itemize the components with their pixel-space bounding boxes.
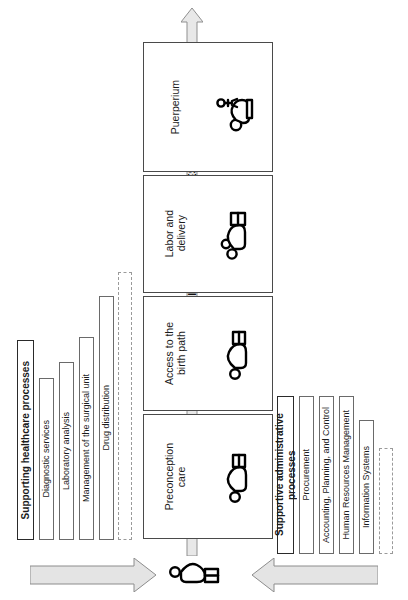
lane-item-procurement[interactable]: Procurement xyxy=(299,396,314,554)
clinical-process-label: Preconception care xyxy=(152,415,198,538)
pregnant-woman-icon xyxy=(168,548,224,596)
lane-item-human-resources-management[interactable]: Human Resources Management xyxy=(339,396,354,554)
lane-item-laboratory-analysis[interactable]: Laboratory analysis xyxy=(59,362,74,540)
clinical-process-box-preconception-care[interactable]: Preconception care xyxy=(143,414,273,539)
clinical-process-box-access-to-birth-path[interactable]: Access to the birth path xyxy=(143,296,273,411)
pregnant-woman-icon xyxy=(200,297,270,410)
diagram-canvas: PRIMARY CLINICAL-CARE PROCESSES Puerperi… xyxy=(0,0,408,600)
lane-item-healthcare-placeholder[interactable] xyxy=(118,272,132,540)
pregnant-woman-icon xyxy=(200,415,270,538)
lane-header-supportive-administrative: Supportive administrative processes xyxy=(277,396,294,554)
mother-and-baby-icon xyxy=(200,43,270,171)
clinical-process-label: Puerperium xyxy=(152,43,198,171)
woman-in-labor-bed-icon xyxy=(200,176,270,292)
clinical-process-box-labor-and-delivery[interactable]: Labor and delivery xyxy=(143,175,273,293)
lane-item-management-of-surgical-unit[interactable]: Management of the surgical unit xyxy=(79,337,94,540)
lane-item-drug-distribution[interactable]: Drug distribution xyxy=(99,296,114,540)
clinical-process-label: Access to the birth path xyxy=(152,297,198,410)
lane-item-administrative-placeholder[interactable] xyxy=(379,448,393,554)
lane-header-supporting-healthcare: Supporting healthcare processes xyxy=(17,340,34,540)
lane-item-accounting-planning-control[interactable]: Accounting, Planning, and Control xyxy=(319,396,334,554)
bottom-left-inbound-arrow xyxy=(30,558,156,592)
lane-item-information-systems[interactable]: Information Systems xyxy=(359,420,374,554)
bottom-right-inbound-arrow xyxy=(252,558,378,592)
clinical-process-box-puerperium[interactable]: Puerperium xyxy=(143,42,273,172)
lane-item-diagnostic-services[interactable]: Diagnostic services xyxy=(39,378,54,540)
clinical-process-label: Labor and delivery xyxy=(152,176,198,292)
